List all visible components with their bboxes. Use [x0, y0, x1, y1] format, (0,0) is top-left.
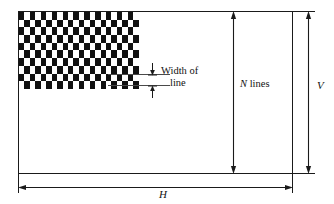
n-lines-label-variable: N — [240, 78, 247, 89]
raster-cell — [133, 35, 138, 43]
raster-cell — [133, 12, 138, 20]
raster-cell — [133, 66, 138, 74]
raster-cell — [133, 58, 138, 66]
n-lines-label: N lines — [240, 78, 269, 89]
checkerboard-raster-pattern — [19, 12, 139, 89]
raster-row — [19, 27, 139, 35]
raster-row — [19, 58, 139, 66]
raster-cell — [133, 43, 138, 51]
raster-cell — [133, 50, 138, 58]
raster-row — [19, 20, 139, 28]
raster-row — [19, 12, 139, 20]
raster-cell — [133, 27, 138, 35]
raster-row — [19, 66, 139, 74]
figure-canvas: Width of line N lines V H — [0, 0, 334, 204]
vertical-extent-dimension-arrow — [304, 11, 313, 174]
raster-row — [19, 35, 139, 43]
width-of-line-label-line1: Width of — [161, 65, 198, 76]
vertical-extent-label: V — [317, 79, 324, 91]
width-of-line-label-line2: line — [161, 77, 198, 89]
n-lines-label-text: lines — [247, 78, 269, 89]
horizontal-extent-dimension-arrow — [18, 183, 293, 192]
horizontal-extent-label: H — [159, 188, 167, 200]
raster-cell — [133, 20, 138, 28]
raster-row — [19, 43, 139, 51]
n-lines-dimension-arrow — [229, 11, 238, 174]
line-width-dimension-arrow — [148, 62, 157, 98]
raster-row — [19, 50, 139, 58]
width-of-line-label: Width of line — [161, 65, 198, 88]
